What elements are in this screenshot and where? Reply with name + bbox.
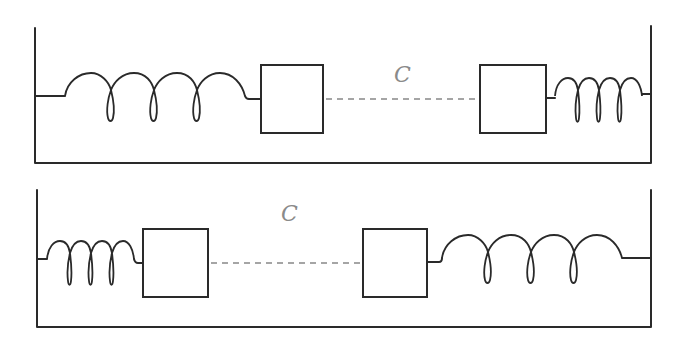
bottom-coupling-label: C	[281, 203, 298, 225]
bottom-right-spring	[427, 235, 651, 283]
bottom-mass-left	[143, 229, 208, 297]
top-mass-right	[480, 65, 546, 133]
top-right-spring	[546, 78, 651, 122]
top-coupling-label: C	[394, 64, 411, 86]
top-frame	[35, 26, 651, 163]
bottom-frame	[37, 190, 651, 327]
coupled-oscillators-diagram	[0, 0, 686, 337]
bottom-system	[37, 190, 651, 327]
top-system	[35, 26, 651, 163]
bottom-left-spring	[37, 241, 143, 285]
top-left-spring	[35, 73, 261, 121]
top-mass-left	[261, 65, 323, 133]
bottom-mass-right	[363, 229, 427, 297]
